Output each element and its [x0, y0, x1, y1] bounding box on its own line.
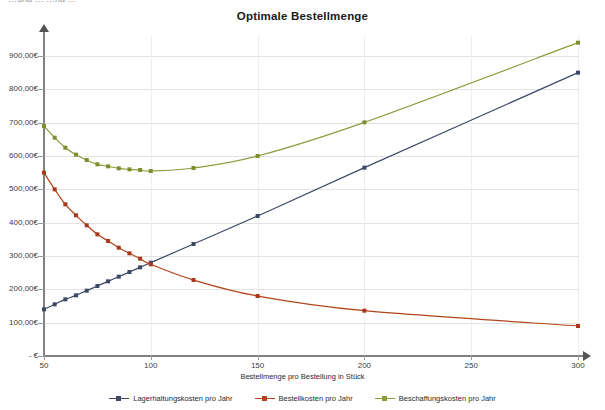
y-axis-label: 900,00€: [0, 51, 38, 60]
legend-swatch-icon: [375, 395, 395, 403]
y-axis-tick: [38, 256, 45, 257]
legend-swatch-icon: [255, 395, 275, 403]
chart-legend: Lagerhaltungskosten pro JahrBestellkoste…: [0, 394, 605, 403]
y-axis-tick: [38, 323, 45, 324]
legend-swatch-icon: [109, 395, 129, 403]
x-axis-tick: [258, 355, 259, 360]
y-axis-label: 800,00€: [0, 84, 38, 93]
plot-area: [44, 36, 578, 356]
x-axis-label: 300: [571, 361, 584, 370]
y-axis-arrow: [39, 24, 49, 32]
y-axis-tick: [38, 123, 45, 124]
legend-item[interactable]: Beschaffungskosten pro Jahr: [375, 394, 496, 403]
x-axis-label: 200: [358, 361, 371, 370]
legend-label: Lagerhaltungskosten pro Jahr: [133, 394, 232, 403]
legend-marker: [382, 396, 387, 401]
x-axis-arrow: [583, 351, 591, 361]
gridline-vertical: [151, 36, 152, 356]
y-axis-tick: [38, 56, 45, 57]
x-axis-tick: [364, 355, 365, 360]
gridline-horizontal: [44, 123, 578, 124]
y-axis-label: - €: [0, 351, 38, 360]
x-axis-label: 50: [40, 361, 49, 370]
gridline-horizontal: [44, 56, 578, 57]
gridline-horizontal: [44, 289, 578, 290]
gridline-horizontal: [44, 189, 578, 190]
gridline-horizontal: [44, 256, 578, 257]
gridline-vertical: [578, 36, 579, 356]
y-axis-label: 100,00€: [0, 318, 38, 327]
y-axis-tick: [38, 189, 45, 190]
gridline-horizontal: [44, 223, 578, 224]
y-axis-line: [43, 30, 45, 356]
legend-item[interactable]: Lagerhaltungskosten pro Jahr: [109, 394, 232, 403]
x-axis-tick: [151, 355, 152, 360]
x-axis-label: 150: [251, 361, 264, 370]
chart-title: Optimale Bestellmenge: [0, 10, 605, 22]
x-axis-line: [44, 355, 584, 357]
clipped-top-text: …ung … …ng …: [0, 0, 605, 2]
gridline-vertical: [471, 36, 472, 356]
y-axis-label: 200,00€: [0, 284, 38, 293]
y-axis-label: 300,00€: [0, 251, 38, 260]
y-axis-label: 600,00€: [0, 151, 38, 160]
x-axis-tick: [44, 355, 45, 360]
x-axis-tick: [578, 355, 579, 360]
y-axis-label: 700,00€: [0, 118, 38, 127]
legend-marker: [116, 396, 121, 401]
legend-item[interactable]: Bestellkosten pro Jahr: [255, 394, 353, 403]
x-axis-label: 250: [465, 361, 478, 370]
gridline-horizontal: [44, 323, 578, 324]
y-axis-label: 400,00€: [0, 218, 38, 227]
y-axis-tick: [38, 223, 45, 224]
chart-canvas: …ung … …ng … Optimale Bestellmenge - €10…: [0, 0, 605, 410]
x-axis-tick: [471, 355, 472, 360]
gridline-vertical: [258, 36, 259, 356]
y-axis-tick: [38, 289, 45, 290]
gridline-vertical: [364, 36, 365, 356]
legend-marker: [262, 396, 267, 401]
gridline-horizontal: [44, 89, 578, 90]
y-axis-tick: [38, 89, 45, 90]
y-axis-tick: [38, 156, 45, 157]
gridline-horizontal: [44, 156, 578, 157]
legend-label: Bestellkosten pro Jahr: [279, 394, 353, 403]
x-axis-title: Bestellmenge pro Bestellung in Stück: [0, 372, 605, 381]
x-axis-label: 100: [144, 361, 157, 370]
legend-label: Beschaffungskosten pro Jahr: [399, 394, 496, 403]
y-axis-label: 500,00€: [0, 184, 38, 193]
